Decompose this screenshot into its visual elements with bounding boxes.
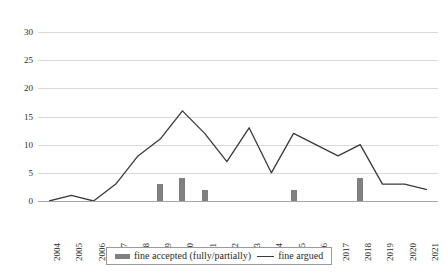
plot-area <box>38 32 438 201</box>
chart-container: 051015202530 200420052006200720082009201… <box>0 0 445 276</box>
y-tick-label: 30 <box>5 28 33 37</box>
legend-label-fine-accepted: fine accepted (fully/partially) <box>134 250 251 262</box>
line-swatch-icon <box>257 256 274 257</box>
x-tick-label: 2019 <box>386 243 395 261</box>
legend-item-fine-accepted[interactable]: fine accepted (fully/partially) <box>115 250 251 262</box>
legend-item-fine-argued[interactable]: fine argued <box>257 250 323 262</box>
legend-label-fine-argued: fine argued <box>278 250 323 262</box>
y-tick-label: 15 <box>5 113 33 122</box>
x-tick-label: 2017 <box>342 243 351 261</box>
line-series-fine-argued <box>38 32 438 201</box>
x-axis: 2004200520062007200820092010201120122013… <box>38 203 438 245</box>
x-tick-label: 2020 <box>409 243 418 261</box>
y-tick-label: 10 <box>5 141 33 150</box>
line-path-fine-argued <box>38 32 438 201</box>
y-tick-label: 20 <box>5 84 33 93</box>
y-tick-label: 0 <box>5 197 33 206</box>
y-axis: 051015202530 <box>0 32 33 201</box>
gridline-0 <box>38 201 438 202</box>
x-tick-label: 2018 <box>364 243 373 261</box>
x-tick-label: 2005 <box>75 243 84 261</box>
bar-swatch-icon <box>115 254 130 259</box>
y-tick-label: 5 <box>5 169 33 178</box>
x-tick-label: 2004 <box>53 243 62 261</box>
y-tick-label: 25 <box>5 56 33 65</box>
x-tick-label: 2021 <box>431 243 440 261</box>
chart-legend: fine accepted (fully/partially) fine arg… <box>106 247 332 265</box>
